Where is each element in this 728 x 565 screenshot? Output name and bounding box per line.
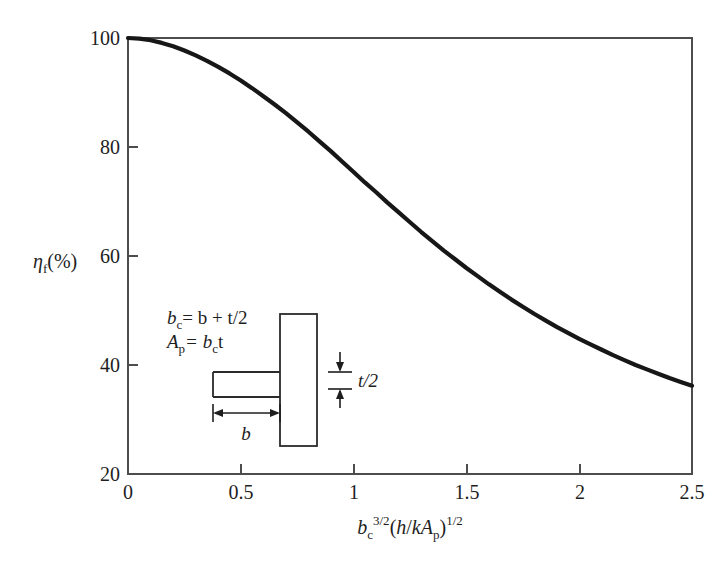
inset-width-dimension: b [213,404,280,444]
x-tick-label-1: 1 [349,481,359,503]
inset-fin-arm [213,372,280,397]
y-axis-title-text: ηf(%) [33,250,77,276]
inset-width-label-text: b [241,423,251,444]
inset-equation-1: bc= b + t/2 [167,307,248,332]
inset-eq2-lhs: A [165,331,179,352]
fin-efficiency-figure: 100 80 60 40 20 0 0.5 1 1.5 2 2.5 ηf(%) … [0,0,728,565]
y-tick-label-40: 40 [100,354,120,376]
inset-eq1-rhs: = b + t/2 [182,307,247,328]
x-axis-title-paren-sup: 1/2 [446,513,463,528]
x-axis-title: bc3/2(h/kAp)1/2 [357,513,463,542]
data-series-fin-efficiency [128,38,692,386]
inset-fin-diagram: t/2 b [213,314,379,446]
x-axis-title-text: bc3/2(h/kAp)1/2 [357,513,463,542]
inset-equations: bc= b + t/2 Ap= bct [165,307,248,356]
inset-base-wall [280,314,317,446]
x-axis-tick-labels: 0 0.5 1 1.5 2 2.5 [123,481,705,503]
x-tick-label-1p5: 1.5 [455,481,480,503]
inset-width-arrow-left-head [213,409,223,417]
y-tick-label-100: 100 [90,27,120,49]
x-axis-ticks [128,464,692,474]
inset-eq1-lhs: b [167,307,177,328]
x-axis-title-paren-close: ) [439,516,446,539]
x-axis-title-h: h [396,516,406,538]
y-axis-title-unit: (%) [47,250,77,273]
inset-thickness-label: t/2 [358,370,379,391]
x-tick-label-2: 2 [575,481,585,503]
inset-thickness-arrow-down-head [336,362,344,372]
inset-thickness-label-text: t/2 [358,370,379,391]
y-axis-ticks [128,38,138,474]
y-tick-label-80: 80 [100,136,120,158]
y-tick-label-20: 20 [100,463,120,485]
x-axis-title-b-sup: 3/2 [373,513,390,528]
x-axis-title-b: b [357,516,367,538]
curve-line [128,38,692,386]
inset-eq2-rhs: = b [185,331,212,352]
y-axis-tick-labels: 100 80 60 40 20 [90,27,120,485]
inset-width-label: b [241,423,251,444]
y-axis-title-eta: η [33,250,43,273]
inset-width-arrow-right-head [270,409,280,417]
x-tick-label-2p5: 2.5 [680,481,705,503]
inset-equation-2: Ap= bct [165,331,224,356]
chart-svg: 100 80 60 40 20 0 0.5 1 1.5 2 2.5 ηf(%) … [0,0,728,565]
inset-eq2-tail: t [218,331,224,352]
y-axis-title: ηf(%) [33,250,77,276]
x-tick-label-0p5: 0.5 [229,481,254,503]
y-tick-label-60: 60 [100,245,120,267]
inset-thickness-arrow-up-head [336,389,344,399]
x-axis-title-A: A [419,516,434,538]
x-axis-title-b-sub: c [367,527,373,542]
inset-thickness-dimension: t/2 [328,352,379,408]
x-tick-label-0: 0 [123,481,133,503]
